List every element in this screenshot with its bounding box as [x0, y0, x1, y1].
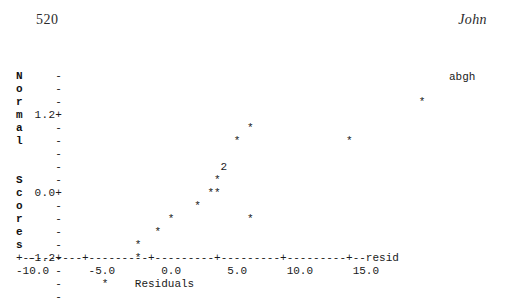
plot-row-markers: * [62, 122, 253, 135]
plot-row: e- * [16, 226, 425, 239]
y-axis-tick-label: - [23, 70, 63, 83]
y-axis-name-char: o [16, 83, 23, 96]
y-axis-tick-label: - [23, 83, 63, 96]
y-axis-name-char [16, 148, 23, 161]
y-axis-tick-label: 0.0+ [23, 187, 63, 200]
y-axis-name-char [16, 161, 23, 174]
plot-row: m1.2+ [16, 109, 425, 122]
y-axis-name-char: c [16, 187, 23, 200]
y-axis-tick-label: - [23, 135, 63, 148]
plot-row: l- * * [16, 135, 425, 148]
y-axis-tick-label: - [23, 174, 63, 187]
plot-row: c0.0+ ** [16, 187, 425, 200]
plot-row-markers: ** [62, 187, 220, 200]
plot-row: o- * [16, 200, 425, 213]
y-axis-name-char: e [16, 226, 23, 239]
y-axis-tick-label: 1.2+ [23, 109, 63, 122]
y-axis-name-char: m [16, 109, 23, 122]
y-axis-tick-label: - [23, 213, 63, 226]
x-axis-tick-labels: -10.0 -5.0 0.0 5.0 10.0 15.0 [16, 265, 379, 278]
y-axis-name-char: r [16, 96, 23, 109]
plot-row-markers: * [62, 226, 161, 239]
plot-row: S- * [16, 174, 425, 187]
y-axis-name-char: s [16, 239, 23, 252]
plot-row-markers: 2 [62, 161, 227, 174]
plot-row-markers: * [62, 239, 141, 252]
y-axis-name-char: N [16, 70, 23, 83]
y-axis-name-char [16, 291, 23, 302]
y-axis-tick-label: - [23, 148, 63, 161]
y-axis-tick-label: - [23, 226, 63, 239]
plot-row: o- [16, 83, 425, 96]
plot-row: N- [16, 70, 425, 83]
y-axis-name-char: l [16, 135, 23, 148]
plot-row-markers: * * [62, 213, 253, 226]
x-axis-title-text: Residuals [135, 278, 194, 290]
y-axis-tick-label: - [23, 239, 63, 252]
page-number: 520 [36, 12, 59, 28]
plot-row-markers: * [62, 200, 201, 213]
plot-row-markers: * [62, 174, 220, 187]
plot-row: - [16, 148, 425, 161]
plot-row: a- * [16, 122, 425, 135]
plot-row: - 2 [16, 161, 425, 174]
y-axis-name-char: a [16, 122, 23, 135]
x-axis-title: Residuals [16, 278, 194, 291]
y-axis-tick-label: - [23, 122, 63, 135]
plot-row: r- * * [16, 213, 425, 226]
y-axis-name-char: r [16, 213, 23, 226]
running-head-title: John [458, 12, 487, 28]
plot-row: r- * [16, 96, 425, 109]
plot-row: - [16, 291, 425, 302]
y-axis-tick-label: - [23, 161, 63, 174]
plot-row-markers: * * [62, 135, 352, 148]
y-axis-tick-label: - [23, 291, 63, 302]
y-axis-name-char: o [16, 200, 23, 213]
outlier-annotation-label: abgh [449, 71, 475, 84]
plot-row-markers: * [62, 96, 425, 109]
x-axis-line: +---------+---------+---------+---------… [16, 252, 399, 265]
y-axis-tick-label: - [23, 96, 63, 109]
y-axis-tick-label: - [23, 200, 63, 213]
y-axis-name-char: S [16, 174, 23, 187]
plot-row: s- * [16, 239, 425, 252]
